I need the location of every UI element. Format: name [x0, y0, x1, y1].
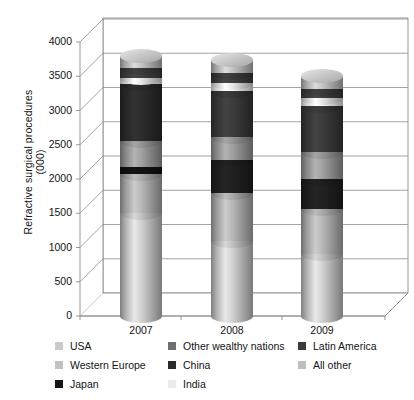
legend-label: Other wealthy nations — [183, 340, 285, 352]
y-tick-label: 1500 — [32, 206, 72, 218]
x-tick-label-2008: 2008 — [202, 324, 262, 336]
legend-label: India — [183, 378, 206, 390]
legend-item-western-europe[interactable]: Western Europe — [55, 355, 146, 374]
cylinder-top-cap — [120, 49, 162, 63]
legend-label: Western Europe — [70, 359, 146, 371]
segment-china — [120, 84, 162, 140]
legend-item-china[interactable]: China — [168, 355, 285, 374]
segment-usa — [120, 213, 162, 316]
y-tick-label: 0 — [32, 309, 72, 321]
legend-label: Japan — [70, 378, 99, 390]
legend-item-japan[interactable]: Japan — [55, 374, 146, 393]
y-tick-label: 2500 — [32, 138, 72, 150]
segment-western-europe — [211, 193, 253, 241]
legend-item-usa[interactable]: USA — [55, 336, 146, 355]
legend: USAWestern EuropeJapanOther wealthy nati… — [0, 336, 414, 400]
x-tick-label-2009: 2009 — [292, 324, 352, 336]
y-tick-label: 3500 — [32, 69, 72, 81]
legend-column-2: Other wealthy nationsChinaIndia — [168, 336, 285, 393]
segment-usa — [301, 254, 343, 316]
legend-item-india[interactable]: India — [168, 374, 285, 393]
y-tick-label: 4000 — [32, 35, 72, 47]
segment-usa — [211, 241, 253, 316]
legend-swatch-icon — [55, 380, 63, 388]
cylinder-top-cap — [211, 53, 253, 67]
legend-column-1: USAWestern EuropeJapan — [55, 336, 146, 393]
legend-swatch-icon — [55, 342, 63, 350]
y-tick-label: 1000 — [32, 241, 72, 253]
legend-swatch-icon — [168, 342, 176, 350]
x-tick-label-2007: 2007 — [111, 324, 171, 336]
legend-label: USA — [70, 340, 92, 352]
legend-label: Latin America — [313, 340, 377, 352]
y-tick-marks — [76, 42, 80, 316]
bar-2009[interactable] — [301, 69, 343, 316]
legend-item-latin-america[interactable]: Latin America — [298, 336, 377, 355]
legend-item-all-other[interactable]: All other — [298, 355, 377, 374]
y-tick-label: 2000 — [32, 172, 72, 184]
legend-swatch-icon — [298, 342, 306, 350]
legend-label: All other — [313, 359, 352, 371]
y-tick-label: 3000 — [32, 104, 72, 116]
legend-item-other-wealthy-nations[interactable]: Other wealthy nations — [168, 336, 285, 355]
bar-2007[interactable] — [120, 49, 162, 316]
y-tick-label: 500 — [32, 275, 72, 287]
legend-label: China — [183, 359, 210, 371]
legend-column-3: Latin AmericaAll other — [298, 336, 377, 374]
bar-2008[interactable] — [211, 53, 253, 316]
legend-swatch-icon — [298, 361, 306, 369]
legend-swatch-icon — [168, 361, 176, 369]
legend-swatch-icon — [168, 380, 176, 388]
segment-latin-america — [211, 91, 253, 136]
chart-root: Refractive surgical procedures (000) 050… — [0, 0, 414, 400]
legend-swatch-icon — [55, 361, 63, 369]
